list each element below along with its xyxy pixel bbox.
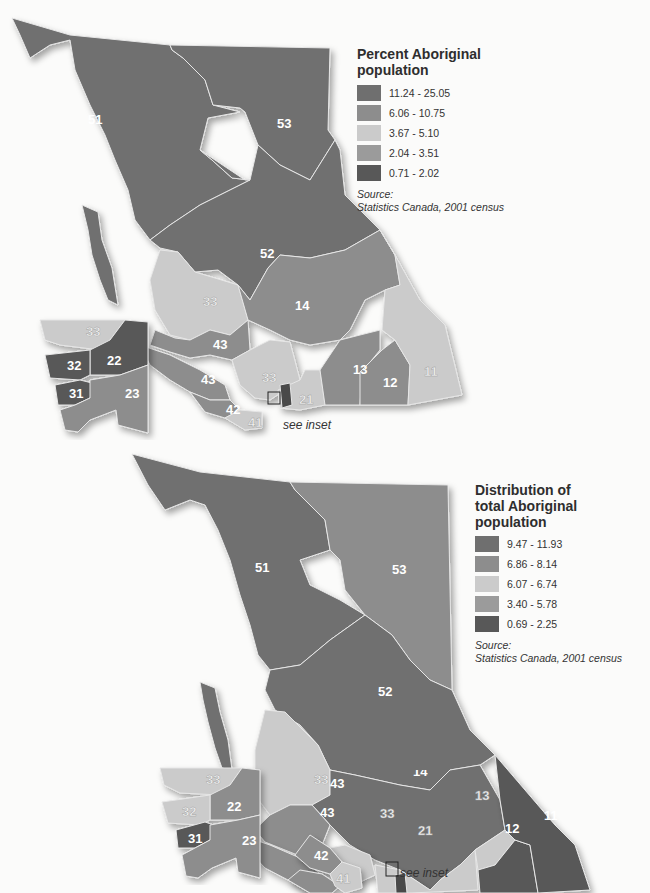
label-41: 41 (248, 415, 262, 430)
legend-range: 6.07 - 6.74 (507, 578, 557, 590)
legend-range: 0.69 - 2.25 (507, 618, 557, 630)
legend-row: 9.47 - 11.93 (475, 534, 650, 553)
legend-range: 11.24 - 25.05 (389, 87, 450, 99)
legend-row: 6.07 - 6.74 (475, 574, 650, 593)
label-14: 14 (295, 298, 310, 313)
legend-percent-aboriginal: Percent Aboriginal population 11.24 - 25… (357, 46, 504, 214)
legend-swatch (357, 165, 381, 181)
legend-range: 3.67 - 5.10 (389, 127, 439, 139)
legend-source: Source: Statistics Canada, 2001 census (357, 188, 504, 214)
label-53: 53 (277, 116, 291, 131)
legend-swatch (475, 616, 499, 632)
see-inset-note-bottom: see inset (400, 866, 448, 880)
legend-range: 6.86 - 8.14 (507, 558, 557, 570)
legend-swatch (357, 105, 381, 121)
label-43-mainland: 43 (330, 776, 344, 791)
label-43-island: 43 (201, 372, 215, 387)
map-percent-aboriginal: 51 53 52 33 14 43 43 33 21 13 12 11 42 4… (0, 0, 650, 440)
legend-title-line1: Percent Aboriginal (357, 46, 504, 62)
legend-row: 0.69 - 2.25 (475, 614, 650, 633)
legend-row: 3.40 - 5.78 (475, 594, 650, 613)
legend-row: 3.67 - 5.10 (357, 123, 504, 142)
legend-row: 6.06 - 10.75 (357, 103, 504, 122)
label-51: 51 (88, 112, 102, 127)
legend-swatch (357, 145, 381, 161)
label-52: 52 (378, 684, 392, 699)
label-12: 12 (383, 375, 397, 390)
label-12: 12 (505, 821, 519, 836)
label-33-coast: 33 (203, 294, 217, 309)
legend-swatch (357, 85, 381, 101)
inset-label-23: 23 (125, 386, 139, 401)
legend-source-label: Source: (475, 639, 650, 652)
legend-range: 6.06 - 10.75 (389, 107, 445, 119)
label-42: 42 (226, 402, 240, 417)
legend-row: 11.24 - 25.05 (357, 83, 504, 102)
legend-swatch (475, 576, 499, 592)
legend-swatch (475, 556, 499, 572)
inset-label-22: 22 (107, 353, 121, 368)
label-43-mainland: 43 (213, 337, 227, 352)
legend-title-line2: population (357, 62, 504, 78)
legend-source-label: Source: (357, 188, 504, 201)
map-distribution-labels-south: 14 43 43 33 21 13 12 11 (0, 770, 650, 893)
label-33-south: 33 (380, 806, 394, 821)
legend-swatch (475, 536, 499, 552)
map-distribution-labels-south-svg: 14 43 43 33 21 13 12 11 (0, 770, 650, 893)
region-haida-gwaii (82, 205, 118, 305)
legend-row: 2.04 - 3.51 (357, 143, 504, 162)
region-fraser-strip (280, 383, 292, 408)
legend-range: 9.47 - 11.93 (507, 538, 562, 550)
legend-source-text: Statistics Canada, 2001 census (475, 652, 650, 665)
inset-label-33: 33 (86, 324, 100, 339)
label-11: 11 (544, 808, 558, 823)
label-11: 11 (424, 364, 438, 379)
legend-source-text: Statistics Canada, 2001 census (357, 201, 504, 214)
label-21: 21 (299, 392, 313, 407)
legend-distribution-aboriginal: Distribution of total Aboriginal populat… (475, 482, 650, 665)
legend-row: 0.71 - 2.02 (357, 163, 504, 182)
label-13: 13 (353, 362, 367, 377)
legend-range: 2.04 - 3.51 (389, 147, 439, 159)
see-inset-note-top: see inset (283, 418, 331, 432)
label-43-island: 43 (320, 805, 334, 820)
legend-swatch (475, 596, 499, 612)
legend-range: 3.40 - 5.78 (507, 598, 557, 610)
label-14: 14 (413, 770, 428, 779)
label-51: 51 (255, 560, 269, 575)
inset-label-31: 31 (69, 386, 83, 401)
legend-swatch (357, 125, 381, 141)
label-21: 21 (418, 823, 432, 838)
inset-label-32: 32 (67, 358, 81, 373)
map-percent-aboriginal-svg: 51 53 52 33 14 43 43 33 21 13 12 11 42 4… (0, 0, 650, 440)
label-13: 13 (475, 788, 489, 803)
label-52: 52 (260, 246, 274, 261)
legend-row: 6.86 - 8.14 (475, 554, 650, 573)
legend-source: Source: Statistics Canada, 2001 census (475, 639, 650, 665)
label-33-south: 33 (262, 370, 276, 385)
legend-title-line2: total Aboriginal population (475, 498, 650, 530)
label-53: 53 (392, 562, 406, 577)
legend-range: 0.71 - 2.02 (389, 167, 439, 179)
legend-title-line1: Distribution of (475, 482, 650, 498)
